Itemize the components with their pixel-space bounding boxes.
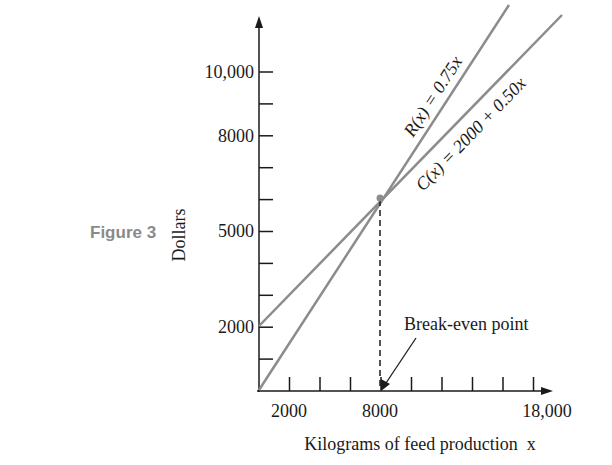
axes bbox=[257, 22, 547, 392]
y-axis-label: Dollars bbox=[169, 209, 189, 262]
y-tick-labels: 10,000 8000 5000 2000 bbox=[205, 62, 255, 337]
x-tick-label: 8000 bbox=[362, 401, 398, 421]
revenue-line-label: R(x) = 0.75x bbox=[399, 52, 467, 141]
break-even-chart: Figure 3 Dollars 10,000 8000 5000 2000 2… bbox=[0, 0, 612, 465]
y-ticks bbox=[259, 72, 273, 359]
x-axis-label: Kilograms of feed production x bbox=[304, 434, 535, 454]
x-axis-arrow-icon bbox=[541, 387, 553, 395]
y-tick-label: 8000 bbox=[218, 126, 254, 146]
cost-line bbox=[259, 15, 562, 326]
x-tick-labels: 2000 8000 18,000 bbox=[271, 401, 572, 421]
y-tick-label: 10,000 bbox=[205, 62, 255, 82]
annotation-arrow-head-icon bbox=[381, 379, 390, 391]
y-tick-label: 5000 bbox=[218, 221, 254, 241]
y-tick-label: 2000 bbox=[218, 317, 254, 337]
x-tick-label: 18,000 bbox=[522, 401, 572, 421]
figure-label: Figure 3 bbox=[90, 223, 156, 242]
y-axis-arrow-icon bbox=[255, 16, 263, 28]
x-ticks bbox=[290, 377, 534, 391]
break-even-annotation: Break-even point bbox=[404, 314, 528, 334]
x-tick-label: 2000 bbox=[271, 401, 307, 421]
break-even-point-marker bbox=[377, 195, 384, 202]
